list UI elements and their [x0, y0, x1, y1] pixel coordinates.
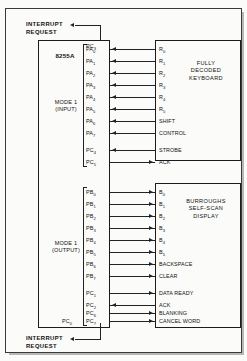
keyboard-box	[155, 40, 241, 161]
signal-cancel-word-label: CANCEL WORD	[159, 318, 200, 324]
signal-b4-label: B4	[159, 237, 165, 245]
signal-r5-label: R5	[159, 106, 165, 114]
pin-pb4-label: PB4	[86, 237, 96, 245]
pin-pc4-label: PC4	[86, 147, 96, 155]
mode-1-output-line1: MODE 1	[55, 240, 77, 246]
wire-pa7	[110, 133, 155, 134]
arrowhead-pa0	[112, 47, 116, 51]
arrowhead-pa6	[112, 119, 116, 123]
signal-backspace-label: BACKSPACE	[159, 261, 192, 267]
arrowhead-pb7	[149, 274, 153, 278]
pin-pa5-label: PA5	[86, 106, 95, 114]
keyboard-title: FULLY DECODED KEYBOARD	[175, 60, 237, 82]
wire-pa3	[110, 85, 155, 86]
pin-pa3-label: PA3	[86, 82, 95, 90]
pin-pc1-label: PC1	[86, 290, 96, 298]
arrowhead-pc1	[149, 291, 153, 295]
interrupt-bottom-arrowhead	[70, 337, 74, 341]
pin-pc7-label: PC7	[86, 318, 96, 326]
interrupt-bottom-line1: INTERRUPT	[26, 334, 63, 342]
signal-blanking-label: BLANKING	[159, 310, 187, 316]
pin-pc3-label: PC3	[86, 43, 96, 51]
pin-pb2-label: PB2	[86, 213, 96, 221]
signal-r3-label: R3	[159, 82, 165, 90]
arrowhead-pc2	[112, 303, 116, 307]
signal-data-ready-label: DATA READY	[159, 290, 193, 296]
keyboard-title-line-0: FULLY	[175, 60, 237, 67]
signal-r0-label: R0	[159, 46, 165, 54]
pin-pb1-label: PB1	[86, 201, 96, 209]
mode-1-input-line1: MODE 1	[55, 99, 77, 105]
pin-pa6-label: PA6	[86, 118, 95, 126]
pin-pb3-label: PB3	[86, 225, 96, 233]
diagram-canvas: 8255A MODE 1 (INPUT) MODE 1 (OUTPUT) FUL…	[0, 0, 247, 361]
pin-pb0-label: PB0	[86, 189, 96, 197]
signal-r4-label: R4	[159, 94, 165, 102]
signal-ack-label: ACK	[159, 302, 170, 308]
interrupt-bottom-line2: REQUEST	[26, 342, 63, 350]
signal-shift-label: SHIFT	[159, 118, 175, 124]
signal-r2-label: R2	[159, 70, 165, 78]
arrowhead-pc4	[112, 148, 116, 152]
arrowhead-pb0	[149, 190, 153, 194]
display-title: BURROUGHS SELF-SCAN DISPLAY	[173, 198, 239, 220]
arrowhead-pa2	[112, 71, 116, 75]
chip-8255a-box	[38, 40, 110, 328]
pin-pc2-label: PC2	[86, 302, 96, 310]
pin-bracket-output	[83, 187, 87, 326]
signal-b0-label: B0	[159, 189, 165, 197]
arrowhead-pc7	[149, 319, 153, 323]
arrowhead-pb2	[149, 214, 153, 218]
pin-pa1-label: PA1	[86, 58, 95, 66]
pin-pc6-label: PC6	[86, 310, 96, 318]
signal-b2-label: B2	[159, 213, 165, 221]
arrowhead-pc5	[149, 160, 153, 164]
interrupt-top-line2: REQUEST	[26, 28, 63, 36]
wire-pc2	[110, 305, 155, 306]
arrowhead-pa4	[112, 95, 116, 99]
arrowhead-pa1	[112, 59, 116, 63]
pin-pb7-label: PB7	[86, 273, 96, 281]
interrupt-bottom-wire-h	[75, 339, 101, 340]
wire-pa6	[110, 121, 155, 122]
interrupt-top-arrowhead	[70, 23, 74, 27]
keyboard-title-line-1: DECODED	[175, 67, 237, 74]
wire-pa0	[110, 49, 155, 50]
interrupt-top-wire-h	[75, 25, 101, 26]
signal-b1-label: B1	[159, 201, 165, 209]
pin-bracket-input	[83, 44, 87, 167]
wire-pa2	[110, 73, 155, 74]
wire-pa1	[110, 61, 155, 62]
arrowhead-pb6	[149, 262, 153, 266]
keyboard-title-line-2: KEYBOARD	[175, 75, 237, 82]
display-title-line-1: SELF-SCAN	[173, 205, 239, 212]
pin-pb6-label: PB6	[86, 261, 96, 269]
wire-pa5	[110, 109, 155, 110]
interrupt-request-top-label: INTERRUPT REQUEST	[26, 20, 63, 36]
signal-b5-label: B5	[159, 249, 165, 257]
arrowhead-pb5	[149, 250, 153, 254]
pin-pc5-label: PC5	[86, 159, 96, 167]
signal-ack-label: ACK	[159, 159, 170, 165]
interrupt-bottom-wire-v	[100, 323, 101, 340]
signal-clear-label: CLEAR	[159, 273, 177, 279]
display-title-line-0: BURROUGHS	[173, 198, 239, 205]
arrowhead-pa5	[112, 107, 116, 111]
arrowhead-pa7	[112, 131, 116, 135]
pin-pa4-label: PA4	[86, 94, 95, 102]
arrowhead-pa3	[112, 83, 116, 87]
signal-control-label: CONTROL	[159, 130, 186, 136]
arrowhead-pb3	[149, 226, 153, 230]
arrowhead-pc6	[149, 311, 153, 315]
interrupt-top-line1: INTERRUPT	[26, 20, 63, 28]
arrowhead-pb1	[149, 202, 153, 206]
signal-strobe-label: STROBE	[159, 147, 182, 153]
interrupt-request-bottom-label: INTERRUPT REQUEST	[26, 334, 63, 350]
wire-pa4	[110, 97, 155, 98]
pin-pc0-label: PC0	[62, 318, 72, 326]
signal-r1-label: R1	[159, 58, 165, 66]
frame-shadow-bottom	[9, 353, 244, 355]
wire-pc4	[110, 150, 155, 151]
display-title-line-2: DISPLAY	[173, 213, 239, 220]
pin-pa2-label: PA2	[86, 70, 95, 78]
